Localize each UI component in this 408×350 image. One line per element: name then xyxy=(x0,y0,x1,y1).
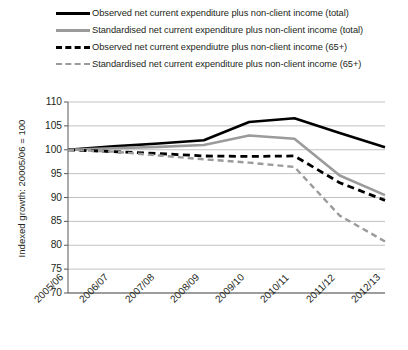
series-lines xyxy=(68,118,385,241)
legend-item-label: Observed net current expenditure plus no… xyxy=(92,8,349,19)
series-line-1 xyxy=(68,135,385,195)
line-dashed-black-icon xyxy=(56,43,90,53)
legend-item-observed-total: Observed net current expenditure plus no… xyxy=(56,5,404,22)
legend-item-standardised-65plus: Standardised net current expenditure plu… xyxy=(56,56,404,73)
legend-item-observed-65plus: Observed net current expendiutre plus no… xyxy=(56,39,404,56)
chart-legend: Observed net current expenditure plus no… xyxy=(56,5,404,73)
legend-item-standardised-total: Standardised net current expenditure plu… xyxy=(56,22,404,39)
plot-canvas xyxy=(0,95,408,295)
series-line-0 xyxy=(68,118,385,150)
legend-item-label: Standardised net current expenditure plu… xyxy=(92,25,363,36)
series-line-3 xyxy=(68,150,385,242)
line-solid-black-icon xyxy=(56,9,90,19)
plot-area: Indexed growth: 20005/06 = 100 110105100… xyxy=(0,95,408,300)
line-dashed-grey-icon xyxy=(56,60,90,70)
line-solid-grey-icon xyxy=(56,26,90,36)
x-axis-tick-labels: 2005/062006/072007/082008/092009/102010/… xyxy=(0,291,408,350)
legend-item-label: Observed net current expendiutre plus no… xyxy=(92,42,347,53)
chart-container: Observed net current expenditure plus no… xyxy=(0,0,408,350)
legend-item-label: Standardised net current expenditure plu… xyxy=(92,59,361,70)
